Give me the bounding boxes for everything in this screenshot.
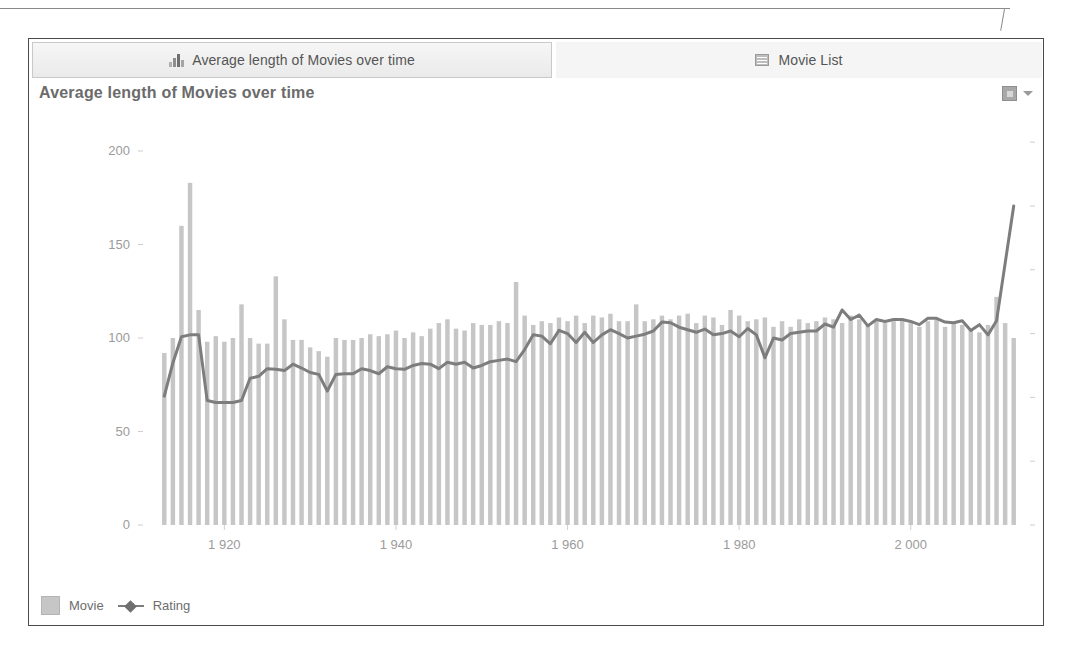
bar[interactable] xyxy=(188,183,192,525)
bar[interactable] xyxy=(797,319,801,525)
bar[interactable] xyxy=(608,314,612,525)
tab-average-length[interactable]: Average length of Movies over time xyxy=(32,42,552,78)
bar[interactable] xyxy=(239,304,243,525)
bar[interactable] xyxy=(806,323,810,525)
bar[interactable] xyxy=(600,317,604,525)
bar[interactable] xyxy=(214,336,218,525)
bar[interactable] xyxy=(445,319,449,525)
bar[interactable] xyxy=(934,319,938,525)
bar[interactable] xyxy=(462,331,466,525)
bar[interactable] xyxy=(548,323,552,525)
bar[interactable] xyxy=(368,334,372,525)
bar[interactable] xyxy=(857,319,861,525)
bar[interactable] xyxy=(402,338,406,525)
bar[interactable] xyxy=(960,325,964,525)
bar[interactable] xyxy=(668,319,672,525)
bar[interactable] xyxy=(754,319,758,525)
bar[interactable] xyxy=(771,327,775,525)
bar[interactable] xyxy=(471,323,475,525)
bar[interactable] xyxy=(788,327,792,525)
bar[interactable] xyxy=(917,327,921,525)
tab-movie-list[interactable]: Movie List xyxy=(556,42,1042,78)
bar[interactable] xyxy=(325,357,329,525)
bar[interactable] xyxy=(334,338,338,525)
bar[interactable] xyxy=(823,317,827,525)
plot-area[interactable]: 05010015020001234561 9201 9401 9601 9802… xyxy=(30,105,1044,590)
bar[interactable] xyxy=(428,329,432,525)
bar[interactable] xyxy=(248,338,252,525)
bar[interactable] xyxy=(582,323,586,525)
bar[interactable] xyxy=(505,323,509,525)
legend-item-movie[interactable]: Movie xyxy=(41,596,104,615)
bar[interactable] xyxy=(720,325,724,525)
bar[interactable] xyxy=(231,338,235,525)
bar[interactable] xyxy=(891,321,895,525)
bar[interactable] xyxy=(994,297,998,525)
bar[interactable] xyxy=(497,321,501,525)
bar[interactable] xyxy=(874,321,878,525)
bar[interactable] xyxy=(677,316,681,525)
bar[interactable] xyxy=(377,336,381,525)
bar[interactable] xyxy=(951,323,955,525)
bar[interactable] xyxy=(514,282,518,525)
bar[interactable] xyxy=(205,342,209,525)
bar[interactable] xyxy=(359,338,363,525)
bar[interactable] xyxy=(256,344,260,525)
bar[interactable] xyxy=(617,321,621,525)
bar[interactable] xyxy=(643,321,647,525)
bar[interactable] xyxy=(900,319,904,525)
bar[interactable] xyxy=(926,321,930,525)
bar[interactable] xyxy=(943,327,947,525)
bar[interactable] xyxy=(763,317,767,525)
bar[interactable] xyxy=(454,329,458,525)
bar[interactable] xyxy=(591,316,595,525)
bar[interactable] xyxy=(1011,338,1015,525)
bar[interactable] xyxy=(651,319,655,525)
bar[interactable] xyxy=(179,226,183,525)
bar[interactable] xyxy=(986,325,990,525)
bar[interactable] xyxy=(351,340,355,525)
bar[interactable] xyxy=(883,323,887,525)
bar[interactable] xyxy=(394,331,398,525)
bar[interactable] xyxy=(274,276,278,525)
chart-options-menu[interactable] xyxy=(1002,86,1033,101)
bar[interactable] xyxy=(660,316,664,525)
bar[interactable] xyxy=(831,319,835,525)
bar[interactable] xyxy=(282,319,286,525)
bar[interactable] xyxy=(711,317,715,525)
bar[interactable] xyxy=(694,323,698,525)
bar[interactable] xyxy=(291,340,295,525)
bar[interactable] xyxy=(574,316,578,525)
bar[interactable] xyxy=(540,321,544,525)
bar[interactable] xyxy=(488,325,492,525)
bar-series-movie[interactable] xyxy=(162,183,1016,525)
bar[interactable] xyxy=(222,342,226,525)
bar[interactable] xyxy=(969,329,973,525)
bar[interactable] xyxy=(162,353,166,525)
chevron-down-icon[interactable] xyxy=(1023,91,1033,96)
bar[interactable] xyxy=(411,332,415,525)
bar[interactable] xyxy=(342,340,346,525)
bar[interactable] xyxy=(780,321,784,525)
bar[interactable] xyxy=(385,334,389,525)
bar[interactable] xyxy=(728,310,732,525)
bar[interactable] xyxy=(909,323,913,525)
bar[interactable] xyxy=(977,332,981,525)
bar[interactable] xyxy=(625,321,629,525)
bar[interactable] xyxy=(848,316,852,525)
chart-options-icon[interactable] xyxy=(1002,86,1017,101)
bar[interactable] xyxy=(565,321,569,525)
bar[interactable] xyxy=(737,316,741,525)
bar[interactable] xyxy=(480,325,484,525)
bar[interactable] xyxy=(685,314,689,525)
bar[interactable] xyxy=(840,323,844,525)
bar[interactable] xyxy=(531,325,535,525)
bar[interactable] xyxy=(1003,323,1007,525)
legend-item-rating[interactable]: Rating xyxy=(118,598,191,613)
bar[interactable] xyxy=(703,316,707,525)
bar[interactable] xyxy=(437,323,441,525)
bar[interactable] xyxy=(746,321,750,525)
chart-canvas[interactable]: 05010015020001234561 9201 9401 9601 9802… xyxy=(30,105,1044,590)
bar[interactable] xyxy=(814,321,818,525)
bar[interactable] xyxy=(866,325,870,525)
